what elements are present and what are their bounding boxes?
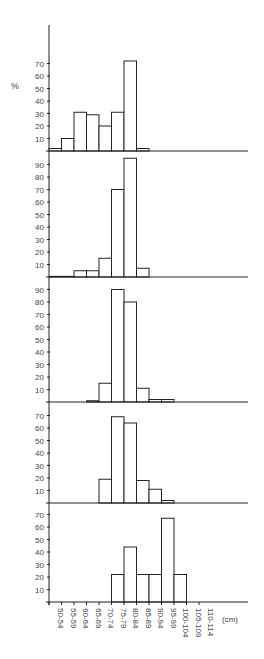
x-category-label: 50-54 xyxy=(56,608,65,629)
histogram-bar xyxy=(99,479,112,503)
y-tick-label: 20 xyxy=(35,474,44,483)
histogram-bar xyxy=(162,518,175,602)
histogram-bar xyxy=(112,190,125,278)
y-tick-label: 60 xyxy=(35,424,44,433)
y-tick-label: 30 xyxy=(35,561,44,570)
y-tick-label: 70 xyxy=(35,311,44,320)
y-tick-label: 20 xyxy=(35,248,44,257)
x-category-label: 65-69 xyxy=(94,608,103,629)
x-category-label: 60-64 xyxy=(81,608,90,629)
y-tick-label: 10 xyxy=(35,586,44,595)
y-tick-label: 40 xyxy=(35,97,44,106)
plot-area: 1020304050607010203040506070809010203040… xyxy=(35,25,248,638)
x-category-label: 80-84 xyxy=(131,608,140,629)
y-tick-label: 50 xyxy=(35,336,44,345)
x-category-label: 105-109 xyxy=(194,608,203,638)
y-tick-label: 10 xyxy=(35,135,44,144)
histogram-bar xyxy=(137,388,150,402)
x-category-label: 95-99 xyxy=(169,608,178,629)
y-tick-label: 80 xyxy=(35,173,44,182)
y-tick-label: 40 xyxy=(35,223,44,232)
y-tick-label: 50 xyxy=(35,437,44,446)
x-category-label: 55-59 xyxy=(69,608,78,629)
y-tick-label: 20 xyxy=(35,573,44,582)
histogram-bar xyxy=(112,575,125,603)
x-category-label: 70-74 xyxy=(106,608,115,629)
y-tick-label: 50 xyxy=(35,536,44,545)
y-tick-label: 80 xyxy=(35,298,44,307)
x-category-label: 100-104 xyxy=(181,608,190,638)
histogram-bar xyxy=(87,271,100,277)
y-tick-label: 50 xyxy=(35,85,44,94)
histogram-bar xyxy=(112,417,125,503)
y-tick-label: 60 xyxy=(35,523,44,532)
histogram-bar xyxy=(99,126,112,151)
histogram-bar xyxy=(149,575,162,603)
histogram-bar xyxy=(149,489,162,503)
histogram-bar xyxy=(124,158,137,277)
x-category-label: 85-89 xyxy=(144,608,153,629)
y-tick-label: 20 xyxy=(35,373,44,382)
histogram-bar xyxy=(99,258,112,277)
histogram-bar xyxy=(124,547,137,602)
y-axis-label: % xyxy=(11,81,19,91)
y-tick-label: 20 xyxy=(35,122,44,131)
y-tick-label: 40 xyxy=(35,449,44,458)
x-category-label: 75-79 xyxy=(119,608,128,629)
histogram-bar xyxy=(87,115,100,151)
y-tick-label: 30 xyxy=(35,236,44,245)
y-tick-label: 10 xyxy=(35,386,44,395)
y-tick-label: 40 xyxy=(35,348,44,357)
y-tick-label: 30 xyxy=(35,110,44,119)
histogram-bar xyxy=(137,268,150,277)
y-tick-label: 70 xyxy=(35,186,44,195)
histogram-bar xyxy=(112,112,125,151)
y-tick-label: 10 xyxy=(35,261,44,270)
histogram-bar xyxy=(74,271,87,277)
histogram-bar xyxy=(137,481,150,504)
y-tick-label: 50 xyxy=(35,211,44,220)
y-tick-label: 60 xyxy=(35,323,44,332)
histogram-bar xyxy=(124,423,137,503)
histogram-bar xyxy=(62,139,75,152)
histogram-bar xyxy=(74,112,87,151)
histogram-bar xyxy=(174,575,187,603)
y-tick-label: 90 xyxy=(35,161,44,170)
histogram-bar xyxy=(124,61,137,151)
y-tick-label: 30 xyxy=(35,361,44,370)
y-tick-label: 30 xyxy=(35,462,44,471)
y-tick-label: 60 xyxy=(35,198,44,207)
y-tick-label: 90 xyxy=(35,286,44,295)
y-tick-label: 70 xyxy=(35,412,44,421)
histogram-bar xyxy=(137,575,150,603)
y-tick-label: 60 xyxy=(35,72,44,81)
x-category-label: 110-114 xyxy=(206,608,215,637)
histogram-bar xyxy=(99,383,112,402)
histogram-bar xyxy=(112,290,125,403)
x-axis-unit-label: (cm) xyxy=(222,615,238,624)
stacked-histogram-chart: % (cm) 102030405060701020304050607080901… xyxy=(0,0,264,659)
y-tick-label: 40 xyxy=(35,548,44,557)
x-category-label: 90-94 xyxy=(156,608,165,629)
y-tick-label: 70 xyxy=(35,60,44,69)
histogram-bar xyxy=(124,302,137,402)
y-tick-label: 10 xyxy=(35,487,44,496)
y-tick-label: 70 xyxy=(35,511,44,520)
